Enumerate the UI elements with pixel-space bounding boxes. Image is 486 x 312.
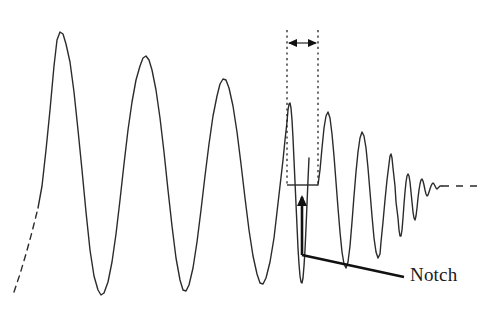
notch-label: Notch [410, 264, 457, 286]
waveform-post-notch-ringdown [318, 112, 442, 268]
waveform-trace-group [14, 32, 478, 295]
notch-leader-diagonal [302, 255, 404, 277]
waveform-main-oscillation [38, 32, 309, 295]
figure-container: Notch [0, 0, 486, 312]
waveform-lead-in-dashed [14, 208, 38, 292]
